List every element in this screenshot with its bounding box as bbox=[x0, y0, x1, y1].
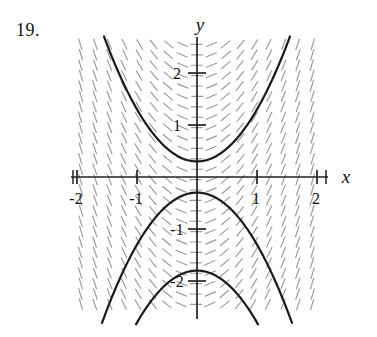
slope-mark bbox=[93, 112, 97, 122]
slope-mark bbox=[236, 269, 243, 278]
slope-mark bbox=[237, 113, 244, 122]
slope-mark bbox=[79, 50, 82, 61]
slope-mark bbox=[282, 154, 286, 164]
slope-mark bbox=[163, 301, 171, 308]
y-tick-label: -2 bbox=[170, 273, 183, 290]
slope-mark bbox=[220, 290, 228, 297]
slope-mark bbox=[281, 91, 285, 101]
slope-mark bbox=[135, 258, 141, 267]
slope-mark bbox=[165, 62, 173, 69]
slope-mark bbox=[79, 216, 82, 227]
slope-mark bbox=[236, 196, 243, 205]
slope-mark bbox=[93, 216, 97, 226]
slope-mark bbox=[108, 143, 112, 153]
slope-mark bbox=[137, 60, 143, 69]
slope-mark bbox=[123, 50, 128, 60]
slope-mark bbox=[252, 216, 258, 225]
slope-mark bbox=[107, 133, 111, 143]
slope-mark bbox=[122, 299, 127, 309]
slope-mark bbox=[281, 185, 285, 195]
slope-mark bbox=[296, 299, 300, 309]
slope-mark bbox=[206, 115, 216, 119]
slope-mark bbox=[93, 185, 97, 195]
slope-mark bbox=[235, 279, 242, 288]
slope-mark bbox=[222, 103, 230, 110]
slope-mark bbox=[79, 60, 82, 71]
slope-mark bbox=[311, 112, 314, 123]
slope-mark bbox=[311, 39, 314, 50]
slope-mark bbox=[122, 247, 127, 257]
slope-mark bbox=[267, 237, 272, 247]
slope-mark bbox=[297, 185, 301, 195]
slope-mark bbox=[135, 144, 141, 153]
slope-mark bbox=[220, 238, 228, 245]
y-tick-label: -1 bbox=[170, 221, 183, 238]
slope-mark bbox=[266, 216, 271, 226]
slope-mark bbox=[80, 91, 83, 102]
slope-mark bbox=[149, 248, 156, 257]
slope-mark bbox=[267, 123, 272, 133]
slope-mark bbox=[282, 60, 286, 70]
slope-mark bbox=[135, 92, 141, 101]
slope-mark bbox=[164, 103, 172, 110]
slope-mark bbox=[237, 155, 244, 164]
slope-mark bbox=[163, 166, 171, 173]
slope-mark bbox=[222, 166, 230, 173]
slope-mark bbox=[252, 248, 258, 257]
slope-mark bbox=[108, 278, 112, 288]
slope-mark bbox=[93, 299, 97, 309]
slope-mark bbox=[221, 155, 229, 162]
slope-mark bbox=[93, 102, 97, 112]
slope-mark bbox=[137, 40, 143, 49]
slope-mark bbox=[108, 122, 112, 132]
slope-mark bbox=[296, 174, 300, 184]
slope-mark bbox=[310, 122, 313, 133]
slope-mark bbox=[206, 188, 216, 192]
slope-mark bbox=[107, 268, 111, 278]
slope-mark bbox=[311, 133, 314, 144]
slope-field-plot: -2-11221-1-2xy bbox=[0, 0, 377, 337]
slope-mark bbox=[267, 185, 272, 195]
slope-mark bbox=[237, 51, 244, 60]
slope-mark bbox=[136, 154, 142, 163]
slope-mark bbox=[282, 81, 286, 91]
slope-mark bbox=[94, 60, 98, 70]
slope-mark bbox=[311, 50, 314, 61]
slope-mark bbox=[296, 226, 300, 236]
slope-mark bbox=[94, 289, 98, 299]
slope-mark bbox=[149, 279, 156, 288]
slope-mark bbox=[162, 238, 170, 245]
slope-mark bbox=[178, 146, 188, 150]
slope-mark bbox=[121, 60, 126, 70]
slope-mark bbox=[220, 228, 228, 235]
slope-mark bbox=[311, 91, 314, 102]
slope-mark bbox=[108, 237, 112, 247]
slope-mark bbox=[150, 82, 157, 91]
slope-mark bbox=[207, 42, 217, 46]
slope-mark bbox=[222, 124, 230, 131]
slope-mark bbox=[93, 247, 97, 257]
slope-mark bbox=[296, 268, 300, 278]
slope-mark bbox=[311, 206, 314, 217]
x-tick-label: 2 bbox=[312, 190, 320, 207]
y-tick-label: 1 bbox=[173, 117, 181, 134]
slope-mark bbox=[236, 103, 243, 112]
slope-mark bbox=[281, 164, 285, 174]
slope-mark bbox=[220, 270, 228, 277]
slope-mark bbox=[149, 144, 156, 153]
slope-mark bbox=[206, 53, 216, 57]
slope-mark bbox=[121, 175, 126, 185]
slope-mark bbox=[150, 103, 157, 112]
slope-mark bbox=[205, 292, 215, 296]
slope-mark bbox=[107, 60, 111, 70]
slope-mark bbox=[267, 143, 272, 153]
slope-mark bbox=[107, 174, 111, 184]
slope-mark bbox=[108, 164, 112, 174]
slope-mark bbox=[310, 81, 313, 92]
slope-mark bbox=[149, 238, 156, 247]
slope-mark bbox=[149, 155, 156, 164]
slope-mark bbox=[177, 94, 187, 98]
slope-mark bbox=[206, 167, 216, 171]
slope-mark bbox=[252, 133, 258, 142]
slope-mark bbox=[296, 133, 300, 143]
